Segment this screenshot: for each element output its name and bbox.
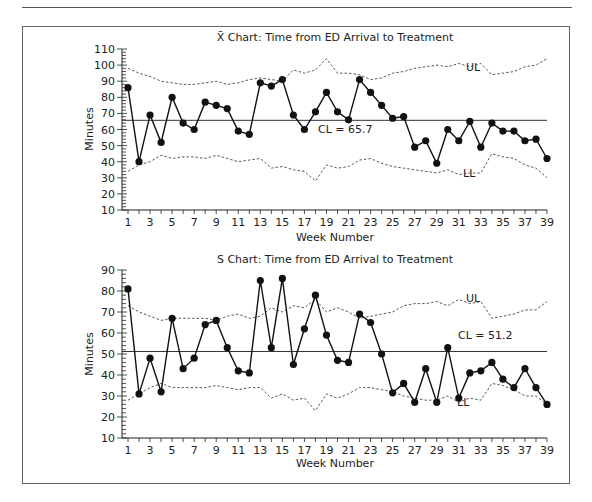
data-point xyxy=(400,380,407,387)
data-point xyxy=(455,395,462,402)
data-point xyxy=(146,111,153,118)
data-point xyxy=(466,118,473,125)
data-point xyxy=(301,126,308,133)
x-tick-label: 33 xyxy=(474,216,488,229)
x-tick-label: 35 xyxy=(496,216,510,229)
x-tick-label: 5 xyxy=(169,216,176,229)
data-point xyxy=(323,332,330,339)
data-point xyxy=(124,84,131,91)
data-point xyxy=(411,144,418,151)
data-point xyxy=(411,399,418,406)
data-point xyxy=(532,384,539,391)
x-tick-label: 39 xyxy=(540,444,554,457)
data-point xyxy=(521,365,528,372)
data-point xyxy=(157,388,164,395)
data-point xyxy=(477,367,484,374)
data-point xyxy=(169,315,176,322)
xbar-ul-label: UL xyxy=(466,61,481,74)
data-point xyxy=(191,126,198,133)
x-tick-label: 19 xyxy=(319,444,333,457)
data-point xyxy=(345,116,352,123)
x-tick-label: 7 xyxy=(191,444,198,457)
xbar-cl-label: CL = 65.7 xyxy=(318,123,373,136)
x-tick-label: 15 xyxy=(275,216,289,229)
data-point xyxy=(224,105,231,112)
x-tick-label: 11 xyxy=(231,216,245,229)
data-point xyxy=(543,155,550,162)
data-point xyxy=(356,311,363,318)
x-tick-label: 9 xyxy=(213,444,220,457)
x-tick-label: 31 xyxy=(452,216,466,229)
data-point xyxy=(279,76,286,83)
data-point xyxy=(510,384,517,391)
x-tick-label: 21 xyxy=(342,216,356,229)
y-tick-label: 40 xyxy=(101,156,115,169)
xbar-x-label: Week Number xyxy=(296,231,374,244)
y-tick-label: 40 xyxy=(101,369,115,382)
x-tick-label: 37 xyxy=(518,444,532,457)
data-point xyxy=(543,401,550,408)
x-tick-label: 29 xyxy=(430,444,444,457)
data-point xyxy=(323,89,330,96)
y-tick-label: 10 xyxy=(101,432,115,445)
x-tick-label: 1 xyxy=(125,216,132,229)
data-point xyxy=(124,285,131,292)
upper-limit-line xyxy=(128,59,547,85)
data-point xyxy=(378,350,385,357)
x-tick-label: 3 xyxy=(147,216,154,229)
y-tick-label: 30 xyxy=(101,390,115,403)
data-point xyxy=(433,160,440,167)
data-point xyxy=(389,389,396,396)
data-point xyxy=(444,344,451,351)
data-point xyxy=(268,344,275,351)
data-point xyxy=(312,292,319,299)
data-point xyxy=(180,365,187,372)
lower-limit-line xyxy=(128,154,547,181)
data-point xyxy=(499,128,506,135)
data-point xyxy=(246,131,253,138)
data-point xyxy=(169,94,176,101)
y-tick-label: 30 xyxy=(101,172,115,185)
x-tick-label: 13 xyxy=(253,444,267,457)
y-tick-label: 90 xyxy=(101,264,115,277)
data-point xyxy=(191,355,198,362)
data-point xyxy=(213,102,220,109)
data-point xyxy=(246,369,253,376)
s-y-label: Minutes xyxy=(83,332,96,376)
data-point xyxy=(312,108,319,115)
x-tick-label: 23 xyxy=(364,216,378,229)
data-point xyxy=(444,126,451,133)
data-point xyxy=(477,144,484,151)
y-tick-label: 80 xyxy=(101,285,115,298)
x-tick-label: 27 xyxy=(408,216,422,229)
x-tick-label: 29 xyxy=(430,216,444,229)
data-line xyxy=(128,80,547,164)
s-chart-title: S Chart: Time from ED Arrival to Treatme… xyxy=(217,253,454,266)
xbar-chart: X̄ Chart: Time from ED Arrival to Treatm… xyxy=(83,31,554,244)
data-point xyxy=(146,355,153,362)
data-point xyxy=(135,158,142,165)
x-tick-label: 17 xyxy=(297,444,311,457)
xbar-chart-title: X̄ Chart: Time from ED Arrival to Treatm… xyxy=(217,31,454,44)
y-tick-label: 50 xyxy=(101,348,115,361)
x-tick-label: 27 xyxy=(408,444,422,457)
y-tick-label: 70 xyxy=(101,107,115,120)
data-point xyxy=(389,115,396,122)
x-tick-label: 23 xyxy=(364,444,378,457)
data-point xyxy=(235,128,242,135)
data-point xyxy=(257,277,264,284)
data-point xyxy=(301,325,308,332)
y-tick-label: 100 xyxy=(94,59,115,72)
data-point xyxy=(488,359,495,366)
data-point xyxy=(213,317,220,324)
data-point xyxy=(433,399,440,406)
data-point xyxy=(532,136,539,143)
x-tick-label: 35 xyxy=(496,444,510,457)
x-tick-label: 21 xyxy=(342,444,356,457)
data-point xyxy=(422,365,429,372)
data-point xyxy=(499,376,506,383)
data-point xyxy=(367,89,374,96)
data-point xyxy=(367,319,374,326)
x-tick-label: 9 xyxy=(213,216,220,229)
data-point xyxy=(202,321,209,328)
